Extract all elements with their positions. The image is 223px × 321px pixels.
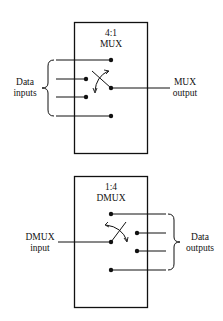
mux-contact-4 [109,114,113,118]
dmux-contact-3 [135,249,139,253]
mux-switch-arm [92,71,111,88]
dmux-input-label: DMUX input [20,232,60,254]
mux-title-ratio: 4:1 [74,28,148,39]
mux-contacts [84,58,113,118]
mux-output-label-line2: output [168,88,202,99]
mux-output-label-line1: MUX [168,77,202,88]
mux-inputs-brace [42,60,54,116]
dmux-contact-2 [135,231,139,235]
mux-inputs-label: Data inputs [8,77,42,99]
mux-inputs-label-line1: Data [8,77,42,88]
dmux-input-label-line2: input [20,243,60,254]
dmux-input-label-line1: DMUX [20,232,60,243]
dmux-title: 1:4 DMUX [74,182,148,204]
dmux-arrowhead-left [105,222,109,227]
mux-output-contact [109,86,113,90]
dmux-rotation-arrow [106,225,127,241]
dmux-contact-1 [109,212,113,216]
mux-contact-3 [84,95,88,99]
mux-output-label: MUX output [168,77,202,99]
mux-contact-1 [109,58,113,62]
mux-title: 4:1 MUX [74,28,148,50]
mux-title-name: MUX [74,39,148,50]
dmux-outputs-label-line2: outputs [180,243,220,254]
mux-inputs-label-line2: inputs [8,88,42,99]
dmux-input-contact [109,240,113,244]
dmux-switch-arm [111,222,126,242]
dmux-outputs-label: Data outputs [180,232,220,254]
mux-contact-2 [84,77,88,81]
dmux-contact-4 [109,268,113,272]
dmux-outputs-label-line1: Data [180,232,220,243]
dmux-title-ratio: 1:4 [74,182,148,193]
dmux-outputs-brace [168,214,180,270]
dmux-title-name: DMUX [74,193,148,204]
dmux-contacts [109,212,139,272]
